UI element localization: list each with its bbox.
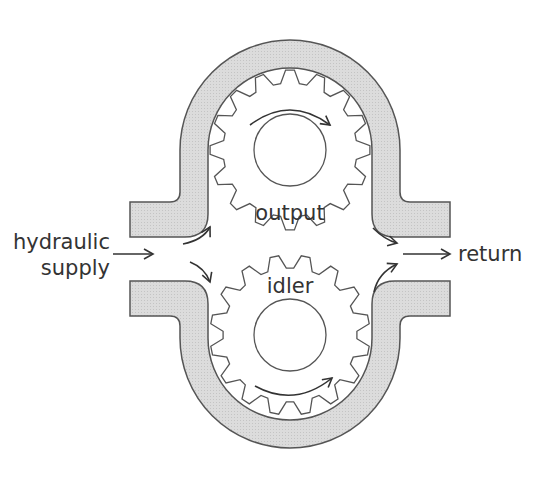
idler-gear-hub (254, 299, 326, 371)
label-output: output (255, 201, 324, 225)
label-idler: idler (267, 274, 314, 298)
label-supply: supply (41, 256, 110, 280)
label-hydraulic: hydraulic (13, 230, 110, 254)
label-return: return (458, 242, 522, 266)
flow-in-lower-arrow-icon (190, 262, 210, 282)
output-gear-hub (254, 114, 326, 186)
gear-pump-diagram: hydraulic supply return output idler (0, 0, 538, 491)
